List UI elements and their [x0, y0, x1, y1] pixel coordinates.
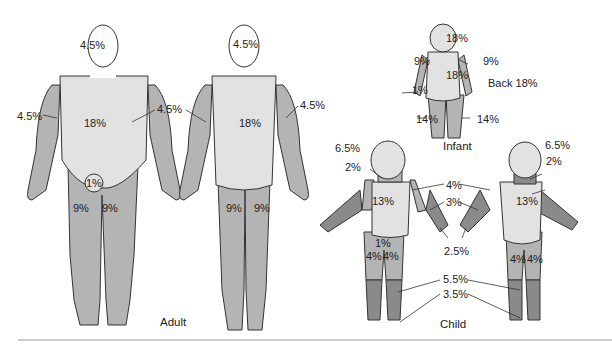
child-foot-label: 3.5% [443, 289, 468, 300]
child-caption: Child [440, 318, 466, 330]
child-trunk-label: 13% [372, 196, 394, 207]
adult-back-leg-left-label: 9% [226, 203, 242, 214]
adult-front-head-label: 4.5% [80, 40, 105, 51]
child-back-trunk-label: 13% [516, 196, 538, 207]
infant-back-note: Back 18% [488, 78, 538, 89]
infant-arm-right-label: 9% [483, 56, 499, 67]
infant-head-label: 18% [446, 33, 468, 44]
child-forearm-label: 3% [446, 197, 462, 208]
child-genitals-label: 1% [375, 238, 391, 249]
infant-leg-right-label: 14% [477, 114, 499, 125]
infant-caption: Infant [443, 140, 472, 152]
child-back-thigh-left-label: 4% [510, 254, 526, 265]
adult-front-trunk-label: 18% [84, 118, 106, 129]
adult-caption: Adult [160, 316, 186, 328]
body-figures [0, 0, 612, 347]
child-back-head-label: 6.5% [545, 140, 570, 151]
adult-front-arm-right-label: 4.5% [157, 104, 182, 115]
child-thigh-left-label: 4% [366, 251, 382, 262]
child-neck-label: 2% [345, 162, 361, 173]
adult-back-figure [180, 25, 309, 330]
infant-genitals-label: 1% [412, 85, 428, 96]
infant-arm-left-label: 9% [414, 56, 430, 67]
adult-front-arm-left-label: 4.5% [17, 111, 42, 122]
adult-back-arm-label: 4.5% [300, 100, 325, 111]
child-front-figure [320, 141, 448, 320]
adult-back-trunk-label: 18% [239, 118, 261, 129]
child-back-neck-label: 2% [546, 156, 562, 167]
child-upper-arm-label: 4% [446, 180, 462, 191]
child-head-label: 6.5% [335, 143, 360, 154]
infant-leg-left-label: 14% [416, 114, 438, 125]
child-back-figure [460, 142, 578, 320]
adult-front-leg-right-label: 9% [102, 203, 118, 214]
adult-front-leg-left-label: 9% [73, 203, 89, 214]
child-back-thigh-right-label: 4% [527, 254, 543, 265]
child-hand-label: 2.5% [444, 246, 469, 257]
adult-back-leg-right-label: 9% [254, 203, 270, 214]
adult-back-head-label: 4.5% [233, 39, 258, 50]
infant-trunk-label: 18% [446, 70, 468, 81]
child-thigh-right-label: 4% [383, 251, 399, 262]
adult-front-genitals-label: 1% [86, 178, 102, 189]
adult-front-figure [28, 25, 181, 325]
child-lower-leg-label: 5.5% [443, 274, 468, 285]
rule-of-nines-diagram: 4.5% 4.5% 4.5% 18% 1% 9% 9% Adult 4.5% 4… [0, 0, 612, 347]
